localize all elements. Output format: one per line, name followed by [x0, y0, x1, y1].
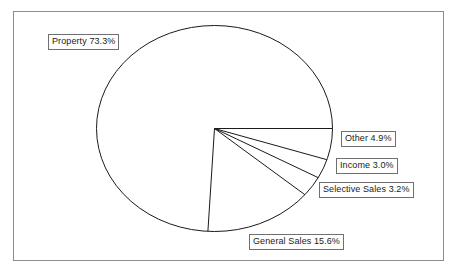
slice-label-income: Income 3.0%	[336, 158, 398, 174]
slice-label-general-sales: General Sales 15.6%	[249, 234, 344, 250]
slice-boundary-property-general-sales	[208, 129, 215, 232]
slice-label-other: Other 4.9%	[341, 131, 396, 147]
slice-boundary-general-sales-selective-sales	[215, 129, 305, 195]
slice-label-property: Property 73.3%	[48, 34, 119, 50]
pie-chart-figure: Property 73.3% Other 4.9% Income 3.0% Se…	[0, 0, 459, 273]
slice-label-selective-sales: Selective Sales 3.2%	[319, 182, 414, 198]
